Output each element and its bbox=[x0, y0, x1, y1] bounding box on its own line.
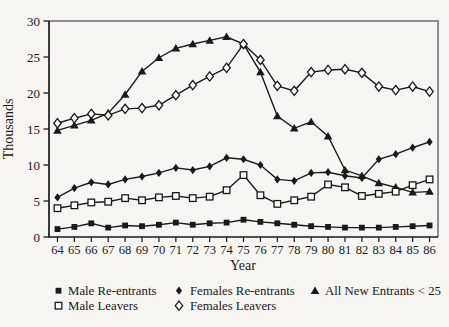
x-tick-label: 68 bbox=[119, 243, 132, 257]
diamond-filled-marker bbox=[240, 155, 246, 163]
square-open-marker bbox=[325, 181, 332, 188]
legend-label: Females Leavers bbox=[190, 299, 276, 313]
x-tick-label: 82 bbox=[356, 243, 369, 257]
x-tick-label: 76 bbox=[254, 243, 267, 257]
square-filled-marker bbox=[410, 223, 416, 229]
square-filled-marker bbox=[393, 224, 399, 230]
diamond-filled-marker bbox=[176, 287, 182, 295]
females-re-entrants-line bbox=[57, 142, 429, 197]
x-tick-label: 73 bbox=[203, 243, 216, 257]
x-tick-label: 84 bbox=[389, 243, 402, 257]
y-tick-label: 30 bbox=[27, 14, 40, 29]
triangle-filled-marker bbox=[273, 112, 282, 120]
x-tick-label: 80 bbox=[322, 243, 335, 257]
legend-item: All New Entrants < 25 bbox=[311, 284, 441, 298]
x-tick-label: 71 bbox=[170, 243, 183, 257]
diamond-open-marker bbox=[341, 65, 348, 74]
diamond-filled-marker bbox=[325, 168, 331, 176]
diamond-open-marker bbox=[54, 119, 61, 128]
diamond-open-marker bbox=[392, 86, 399, 95]
square-filled-marker bbox=[105, 225, 111, 231]
square-open-marker bbox=[240, 172, 247, 179]
triangle-filled-marker bbox=[256, 68, 265, 76]
diamond-filled-marker bbox=[393, 150, 399, 158]
diamond-filled-marker bbox=[105, 180, 111, 188]
diamond-filled-marker bbox=[190, 166, 196, 174]
male-re-entrants-series bbox=[55, 217, 433, 232]
square-open-marker bbox=[257, 192, 264, 199]
square-open-marker bbox=[122, 195, 129, 202]
diamond-open-marker bbox=[426, 87, 433, 96]
diamond-open-marker bbox=[175, 301, 182, 310]
diamond-open-marker bbox=[375, 82, 382, 91]
square-open-marker bbox=[173, 193, 180, 200]
square-filled-marker bbox=[241, 217, 247, 223]
square-open-marker bbox=[189, 195, 196, 202]
diamond-filled-marker bbox=[308, 169, 314, 177]
square-open-marker bbox=[376, 191, 383, 198]
square-filled-marker bbox=[190, 222, 196, 228]
y-axis-title: Thousands bbox=[1, 99, 16, 160]
square-filled-marker bbox=[274, 220, 280, 226]
square-filled-marker bbox=[173, 220, 179, 226]
chart-figure: 051015202530 646566676869707172737475767… bbox=[0, 0, 449, 327]
diamond-filled-marker bbox=[139, 172, 145, 180]
x-tick-label: 64 bbox=[51, 243, 64, 257]
diamond-filled-marker bbox=[173, 164, 179, 172]
x-tick-label: 75 bbox=[237, 243, 250, 257]
triangle-filled-marker bbox=[307, 118, 316, 126]
square-open-marker bbox=[55, 302, 62, 309]
diamond-open-marker bbox=[324, 65, 331, 74]
y-tick-label: 5 bbox=[34, 194, 41, 209]
legend-label: Females Re-entrants bbox=[190, 284, 295, 298]
diamond-open-marker bbox=[71, 114, 78, 123]
diamond-filled-marker bbox=[223, 154, 229, 162]
triangle-filled-marker bbox=[311, 286, 320, 294]
diamond-filled-marker bbox=[122, 175, 128, 183]
line-chart: 051015202530 646566676869707172737475767… bbox=[0, 0, 449, 327]
male-leavers-line bbox=[57, 175, 429, 208]
square-open-marker bbox=[426, 176, 433, 183]
diamond-open-marker bbox=[155, 101, 162, 110]
diamond-open-marker bbox=[121, 104, 128, 113]
legend: All New Entrants < 25Females Re-entrants… bbox=[55, 284, 441, 313]
square-open-marker bbox=[274, 201, 281, 208]
diamond-filled-marker bbox=[207, 162, 213, 170]
diamond-filled-marker bbox=[71, 184, 77, 192]
square-filled-marker bbox=[291, 222, 297, 228]
x-axis-title: Year bbox=[230, 258, 256, 273]
x-axis: 6465666768697071727374757677787980818283… bbox=[51, 237, 436, 257]
y-tick-label: 15 bbox=[27, 122, 40, 137]
square-open-marker bbox=[88, 199, 95, 206]
square-open-marker bbox=[308, 193, 315, 200]
y-tick-label: 10 bbox=[27, 158, 40, 173]
diamond-open-marker bbox=[409, 82, 416, 91]
x-tick-label: 86 bbox=[423, 243, 436, 257]
square-open-marker bbox=[54, 205, 61, 212]
diamond-filled-marker bbox=[274, 175, 280, 183]
square-open-marker bbox=[223, 187, 230, 194]
square-open-marker bbox=[156, 194, 163, 201]
diamond-filled-marker bbox=[88, 178, 94, 186]
series-plots bbox=[53, 33, 434, 232]
square-filled-marker bbox=[156, 222, 162, 228]
diamond-filled-marker bbox=[156, 169, 162, 177]
diamond-filled-marker bbox=[410, 144, 416, 152]
square-filled-marker bbox=[71, 224, 77, 230]
y-tick-label: 25 bbox=[27, 50, 40, 65]
diamond-open-marker bbox=[189, 80, 196, 89]
diamond-open-marker bbox=[138, 104, 145, 113]
square-filled-marker bbox=[207, 220, 213, 226]
male-leavers-series bbox=[54, 172, 433, 212]
y-tick-label: 20 bbox=[27, 86, 40, 101]
x-tick-label: 81 bbox=[339, 243, 352, 257]
square-filled-marker bbox=[427, 223, 433, 229]
diamond-filled-marker bbox=[426, 138, 432, 146]
diamond-open-marker bbox=[358, 68, 365, 77]
square-open-marker bbox=[291, 197, 298, 204]
diamond-open-marker bbox=[88, 109, 95, 118]
square-filled-marker bbox=[258, 219, 264, 225]
legend-item: Male Leavers bbox=[55, 299, 138, 313]
square-filled-marker bbox=[56, 288, 62, 294]
square-filled-marker bbox=[342, 225, 348, 231]
